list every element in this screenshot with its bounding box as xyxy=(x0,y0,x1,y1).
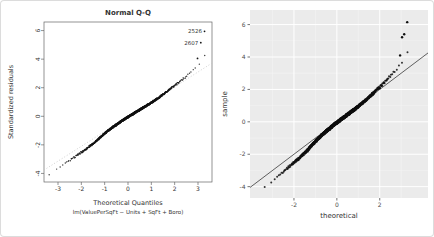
y-axis-label: Standardized residuals xyxy=(7,64,15,139)
y-tick-label: -4 xyxy=(240,183,246,190)
qq-points xyxy=(48,30,205,175)
x-tick-label: 0 xyxy=(126,185,130,192)
y-tick-label: 4 xyxy=(242,53,246,60)
x-axis-label: theoretical xyxy=(320,212,358,220)
x-axis-formula: lm(ValuePerSqFt ~ Units + SqFt + Boro) xyxy=(73,209,184,216)
outlier-point xyxy=(200,42,202,44)
x-tick-label: -1 xyxy=(102,185,108,192)
y-tick-label: 6 xyxy=(242,21,246,28)
base-r-normal-qq-chart: Normal Q-Q-3-2-10123-4-20246Theoretical … xyxy=(4,4,218,233)
x-tick-label: -3 xyxy=(55,185,61,192)
x-tick-label: 0 xyxy=(335,201,339,208)
outlier-point xyxy=(399,54,401,56)
ggplot-qq-chart: -202-4-20246theoreticalsample xyxy=(220,0,434,237)
outlier-label: 2526 xyxy=(188,28,202,34)
chart-title: Normal Q-Q xyxy=(105,9,151,17)
x-tick-label: -2 xyxy=(291,201,297,208)
x-tick-label: 1 xyxy=(149,185,153,192)
y-tick-label: 4 xyxy=(34,57,41,61)
y-tick-label: 0 xyxy=(242,118,246,125)
y-tick-label: 0 xyxy=(34,114,41,118)
outlier-point xyxy=(401,36,403,38)
x-tick-label: 3 xyxy=(196,185,200,192)
y-tick-label: 2 xyxy=(242,85,246,92)
outlier-label: 2607 xyxy=(184,40,198,46)
x-axis-label: Theoretical Quantiles xyxy=(92,199,163,207)
outlier-point xyxy=(197,58,199,60)
ggplot-qq-svg: -202-4-20246theoreticalsample xyxy=(220,0,434,237)
plot-frame xyxy=(44,22,212,182)
y-tick-label: -2 xyxy=(240,150,246,157)
outlier-point xyxy=(204,30,206,32)
y-tick-label: -2 xyxy=(34,142,41,148)
plot-pane: Normal Q-Q-3-2-10123-4-20246Theoretical … xyxy=(0,0,434,237)
x-tick-label: 2 xyxy=(173,185,177,192)
y-axis-label: sample xyxy=(221,91,229,116)
y-tick-label: -4 xyxy=(34,170,41,176)
x-tick-label: -2 xyxy=(78,185,84,192)
y-tick-label: 6 xyxy=(34,29,41,33)
y-tick-label: 2 xyxy=(34,86,41,90)
outlier-point xyxy=(403,33,405,35)
base-r-qq-svg: Normal Q-Q-3-2-10123-4-20246Theoretical … xyxy=(4,4,218,233)
x-tick-label: 2 xyxy=(378,201,382,208)
outlier-point xyxy=(406,21,408,23)
